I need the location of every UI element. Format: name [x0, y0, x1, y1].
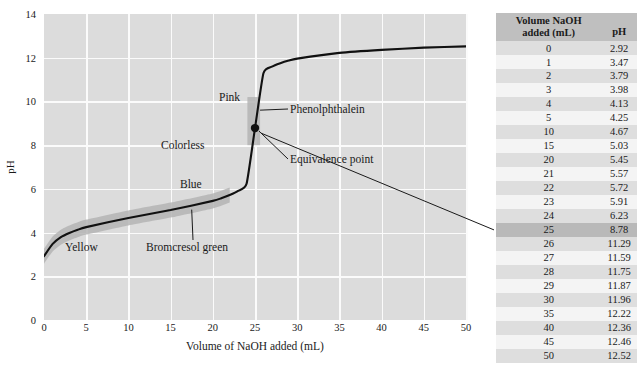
- x-tick-label: 5: [71, 322, 101, 333]
- table-row: 02.92: [496, 41, 637, 55]
- cell-volume: 26: [496, 237, 601, 251]
- cell-ph: 5.91: [601, 195, 637, 209]
- cell-ph: 3.98: [601, 83, 637, 97]
- y-tick-label: 8: [0, 140, 36, 151]
- cell-volume: 45: [496, 335, 601, 349]
- cell-ph: 12.36: [601, 321, 637, 335]
- cell-ph: 3.47: [601, 55, 637, 69]
- cell-volume: 1: [496, 55, 601, 69]
- table-row: 3011.96: [496, 293, 637, 307]
- x-tick-label: 40: [367, 322, 397, 333]
- cell-ph: 4.25: [601, 111, 637, 125]
- titration-data-table: Volume NaOH added (mL) pH 02.9213.4723.7…: [496, 13, 637, 363]
- table-row: 2611.29: [496, 237, 637, 251]
- cell-volume: 3: [496, 83, 601, 97]
- table-row: 235.91: [496, 195, 637, 209]
- table-row: 2711.59: [496, 251, 637, 265]
- gridline-vertical: [382, 14, 384, 320]
- table-row: 33.98: [496, 83, 637, 97]
- gridline-vertical: [297, 14, 299, 320]
- table-row: 4012.36: [496, 321, 637, 335]
- gridline-horizontal: [44, 58, 466, 60]
- cell-ph: 12.46: [601, 335, 637, 349]
- cell-volume: 23: [496, 195, 601, 209]
- table-row: 258.78: [496, 223, 637, 237]
- column-header-ph: pH: [601, 13, 637, 41]
- table-row: 5012.52: [496, 349, 637, 363]
- cell-ph: 11.59: [601, 251, 637, 265]
- gridline-horizontal: [44, 101, 466, 103]
- x-tick-label: 25: [240, 322, 270, 333]
- cell-ph: 11.96: [601, 293, 637, 307]
- cell-ph: 4.13: [601, 97, 637, 111]
- table-row: 3512.22: [496, 307, 637, 321]
- gridline-vertical: [466, 14, 468, 320]
- phenolphthalein-label: Phenolphthalein: [290, 103, 365, 115]
- cell-ph: 11.75: [601, 265, 637, 279]
- y-tick-label: 6: [0, 183, 36, 194]
- table-header-row: Volume NaOH added (mL) pH: [496, 13, 637, 41]
- cell-volume: 0: [496, 41, 601, 55]
- y-tick-label: 2: [0, 271, 36, 282]
- x-tick-label: 35: [324, 322, 354, 333]
- cell-volume: 21: [496, 167, 601, 181]
- table-row: 215.57: [496, 167, 637, 181]
- gridline-horizontal: [44, 145, 466, 147]
- table-row: 13.47: [496, 55, 637, 69]
- cell-volume: 28: [496, 265, 601, 279]
- gridline-horizontal: [44, 189, 466, 191]
- gridline-vertical: [424, 14, 426, 320]
- gridline-vertical: [213, 14, 215, 320]
- gridline-horizontal: [44, 233, 466, 235]
- cell-ph: 5.03: [601, 139, 637, 153]
- cell-volume: 10: [496, 125, 601, 139]
- column-header-volume-line2: added (mL): [498, 27, 599, 39]
- colorless-label: Colorless: [161, 139, 204, 151]
- cell-volume: 20: [496, 153, 601, 167]
- gridline-vertical: [255, 14, 257, 320]
- cell-volume: 50: [496, 349, 601, 363]
- table-body: 02.9213.4723.7933.9844.1354.25104.67155.…: [496, 41, 637, 363]
- table-row: 44.13: [496, 97, 637, 111]
- gridline-vertical: [128, 14, 130, 320]
- y-tick-label: 10: [0, 96, 36, 107]
- cell-ph: 5.57: [601, 167, 637, 181]
- cell-volume: 35: [496, 307, 601, 321]
- cell-ph: 5.72: [601, 181, 637, 195]
- cell-ph: 2.92: [601, 41, 637, 55]
- titration-curve-figure: 02468101214 05101520253035404550 pH Volu…: [0, 0, 490, 378]
- cell-ph: 8.78: [601, 223, 637, 237]
- cell-volume: 5: [496, 111, 601, 125]
- pink-label: Pink: [219, 91, 240, 103]
- y-tick-label: 14: [0, 9, 36, 20]
- yellow-label: Yellow: [65, 241, 98, 253]
- y-tick-label: 12: [0, 52, 36, 63]
- cell-volume: 22: [496, 181, 601, 195]
- table-row: 225.72: [496, 181, 637, 195]
- cell-ph: 3.79: [601, 69, 637, 83]
- equivalence-point-label: Equivalence point: [290, 153, 373, 165]
- table-row: 205.45: [496, 153, 637, 167]
- cell-volume: 30: [496, 293, 601, 307]
- cell-volume: 29: [496, 279, 601, 293]
- cell-ph: 5.45: [601, 153, 637, 167]
- cell-volume: 40: [496, 321, 601, 335]
- column-header-volume-line1: Volume NaOH: [498, 15, 599, 27]
- table-row: 2811.75: [496, 265, 637, 279]
- cell-volume: 15: [496, 139, 601, 153]
- x-tick-label: 15: [156, 322, 186, 333]
- cell-ph: 11.87: [601, 279, 637, 293]
- cell-ph: 4.67: [601, 125, 637, 139]
- y-tick-label: 4: [0, 227, 36, 238]
- cell-ph: 12.52: [601, 349, 637, 363]
- x-tick-label: 45: [409, 322, 439, 333]
- gridline-vertical: [171, 14, 173, 320]
- table-row: 246.23: [496, 209, 637, 223]
- cell-volume: 4: [496, 97, 601, 111]
- cell-volume: 24: [496, 209, 601, 223]
- x-tick-label: 30: [282, 322, 312, 333]
- table-row: 23.79: [496, 69, 637, 83]
- cell-volume: 27: [496, 251, 601, 265]
- gridline-vertical: [86, 14, 88, 320]
- table-row: 104.67: [496, 125, 637, 139]
